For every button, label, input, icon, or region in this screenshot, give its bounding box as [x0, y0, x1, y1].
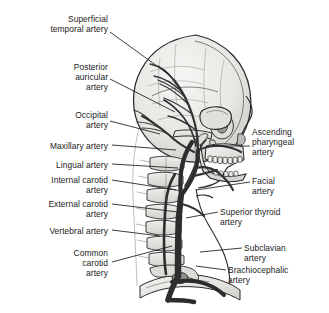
label-occipital-artery: Occipital artery [28, 110, 108, 130]
leader-line-internal-carotid-artery [112, 180, 176, 190]
leader-line-common-carotid-artery [112, 246, 172, 262]
label-subclavian-artery: Subclavian artery [244, 243, 328, 263]
label-common-carotid-artery: Common carotid artery [30, 248, 108, 279]
label-lingual-artery: Lingual artery [18, 160, 108, 170]
label-external-carotid-artery: External carotid artery [12, 199, 108, 219]
label-vertebral-artery: Vertebral artery [14, 226, 108, 236]
leader-line-maxillary-artery [112, 145, 176, 150]
label-facial-artery: Facial artery [252, 176, 326, 196]
leader-line-superficial-temporal-artery [110, 32, 168, 74]
leader-line-occipital-artery [110, 121, 160, 134]
label-posterior-auricular-artery: Posterior auricular artery [20, 62, 108, 93]
label-brachiocephalic-artery: Brachiocephalic artery [228, 265, 328, 285]
label-maxillary-artery: Maxillary artery [12, 141, 108, 151]
leader-line-external-carotid-artery [112, 204, 178, 212]
artery-diagram-figure: Superficial temporal arteryPosterior aur… [0, 0, 329, 313]
leader-line-posterior-auricular-artery [110, 79, 175, 112]
label-ascending-pharyngeal-artery: Ascending pharyngeal artery [252, 127, 326, 158]
leader-line-lingual-artery [112, 164, 178, 168]
leader-line-facial-artery [196, 182, 250, 190]
leader-line-subclavian-artery [200, 248, 242, 252]
leader-line-vertebral-artery [112, 230, 160, 236]
leader-line-superior-thyroid-artery [186, 212, 218, 218]
label-superficial-temporal-artery: Superficial temporal artery [12, 14, 108, 34]
label-internal-carotid-artery: Internal carotid artery [14, 175, 108, 195]
label-superior-thyroid-artery: Superior thyroid artery [220, 207, 328, 227]
leader-line-brachiocephalic-artery [196, 266, 226, 270]
